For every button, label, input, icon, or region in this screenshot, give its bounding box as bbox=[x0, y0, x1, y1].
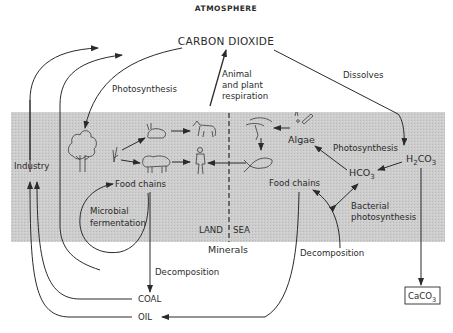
industry-node: Industry bbox=[14, 161, 49, 171]
bacterial-label-1: Bacterial bbox=[351, 201, 389, 211]
microbial-label-2: fermentation bbox=[90, 218, 146, 228]
respiration-label-3: respiration bbox=[222, 91, 268, 101]
food-chains-sea-node: Food chains bbox=[269, 178, 321, 188]
sea-label: SEA bbox=[233, 225, 250, 235]
minerals-node: Minerals bbox=[208, 244, 248, 255]
algae-node: Algae bbox=[288, 134, 315, 145]
caco3-node: CaCO3 bbox=[408, 291, 436, 304]
carbon-dioxide-node: CARBON DIOXIDE bbox=[178, 35, 274, 47]
respiration-label-1: Animal bbox=[222, 69, 252, 79]
respiration-label-2: and plant bbox=[222, 80, 263, 90]
biosphere-band bbox=[11, 112, 445, 242]
carbon-cycle-diagram: ATMOSPHERE CARBON DIOXIDE Photosynthesis… bbox=[0, 0, 453, 333]
food-chains-land-node: Food chains bbox=[115, 179, 167, 189]
dissolves-label: Dissolves bbox=[343, 70, 384, 80]
microbial-label-1: Microbial bbox=[90, 206, 129, 216]
coal-node: COAL bbox=[138, 294, 161, 304]
decomposition-land-label: Decomposition bbox=[155, 267, 219, 277]
bacterial-label-2: photosynthesis bbox=[351, 212, 417, 222]
atmosphere-title: ATMOSPHERE bbox=[195, 4, 257, 13]
photosynthesis-land-label: Photosynthesis bbox=[112, 84, 177, 94]
oil-node: OIL bbox=[138, 312, 152, 322]
land-label: LAND bbox=[199, 225, 223, 235]
photosynthesis-sea-label: Photosynthesis bbox=[333, 143, 398, 153]
decomposition-sea-label: Decomposition bbox=[300, 248, 364, 258]
